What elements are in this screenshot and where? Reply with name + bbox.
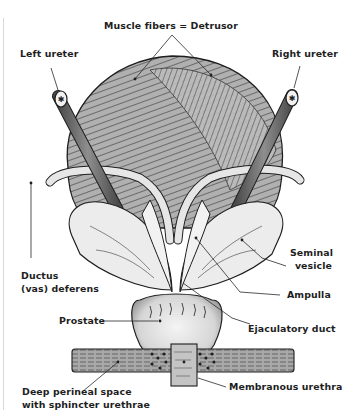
bladder-illustration: ✱ ✱: [0, 0, 344, 418]
label-membranous-urethra: Membranous urethra: [229, 381, 342, 393]
label-right-ureter: Right ureter: [272, 48, 338, 60]
label-ampulla: Ampulla: [287, 289, 331, 301]
label-deep-perineal-line2: with sphincter urethrae: [22, 399, 150, 411]
label-prostate: Prostate: [59, 315, 105, 327]
label-muscle-fibers-detrusor: Muscle fibers = Detrusor: [104, 20, 238, 32]
label-seminal-vesicle-line2: vesicle: [290, 260, 332, 272]
anatomy-figure: ✱ ✱: [0, 0, 344, 418]
label-ejaculatory-duct: Ejaculatory duct: [248, 323, 336, 335]
svg-text:✱: ✱: [58, 95, 65, 104]
membranous-urethra: [171, 344, 197, 386]
label-left-ureter: Left ureter: [20, 48, 78, 60]
label-deep-perineal-line1: Deep perineal space: [22, 386, 132, 398]
label-seminal-vesicle-line1: Seminal: [290, 247, 332, 259]
svg-text:✱: ✱: [289, 94, 296, 103]
label-ductus-deferens-line1: Ductus: [21, 270, 58, 282]
label-ductus-deferens-line2: (vas) deferens: [21, 283, 99, 295]
